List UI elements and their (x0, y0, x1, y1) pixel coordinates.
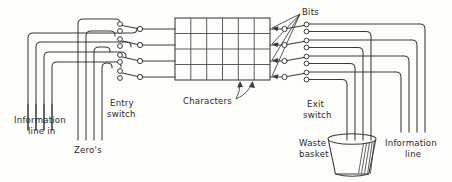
bits-label: Bits (302, 7, 319, 17)
zeros-bus (78, 19, 120, 140)
exit-contact-2b[interactable] (304, 45, 309, 50)
exit-blade-1[interactable] (287, 26, 304, 29)
exit-contact-1a[interactable] (304, 22, 309, 27)
entry-blade-1[interactable] (122, 26, 137, 29)
zeros-label: Zero's (74, 145, 102, 155)
characters-arrow-1 (237, 81, 243, 87)
schematic-canvas: Information line in Zero's Entry switch … (0, 0, 452, 182)
character-bit-matrix (175, 18, 270, 80)
entry-switch-label-line2: switch (107, 109, 136, 119)
entry-switch-pole-4[interactable] (118, 69, 175, 81)
exit-blade-2[interactable] (287, 42, 304, 45)
exit-pivot-1[interactable] (282, 26, 287, 31)
entry-pivot-2[interactable] (137, 42, 142, 47)
entry-switch[interactable] (118, 22, 175, 81)
entry-contact-3b[interactable] (118, 60, 123, 65)
exit-switch-label-line1: Exit (307, 99, 325, 109)
entry-contact-4b[interactable] (118, 76, 123, 81)
exit-pivot-2[interactable] (282, 42, 287, 47)
entry-pivot-1[interactable] (137, 26, 142, 31)
information-line-out-label-line1: Information (385, 138, 437, 148)
waste-basket-label-line2: basket (299, 149, 329, 159)
waste-basket-rim (328, 134, 376, 144)
entry-contact-2b[interactable] (118, 44, 123, 49)
exit-contact-3a[interactable] (304, 54, 309, 59)
entry-blade-3[interactable] (122, 57, 137, 61)
entry-blade-4[interactable] (122, 73, 137, 77)
exit-pivot-3[interactable] (282, 58, 287, 63)
exit-contact-1b[interactable] (304, 29, 309, 34)
exit-blade-3[interactable] (287, 58, 304, 61)
information-line-in-label-line1: Information (14, 115, 66, 125)
info-out-wire-3 (309, 56, 409, 132)
information-line-out-label-line2: line (405, 149, 421, 159)
characters-arrow-2 (249, 81, 255, 88)
waste-basket-shading (359, 141, 375, 174)
schematic-diagram: Information line in Zero's Entry switch … (0, 0, 452, 182)
information-line-in-label-line2: line in (28, 126, 55, 136)
entry-blade-2[interactable] (122, 41, 137, 45)
entry-contact-2a[interactable] (118, 37, 123, 42)
waste-basket (328, 134, 376, 176)
characters-label: Characters (183, 96, 232, 106)
exit-contact-3b[interactable] (304, 61, 309, 66)
exit-pivot-4[interactable] (282, 74, 287, 79)
entry-pivot-4[interactable] (137, 74, 142, 79)
exit-contact-4a[interactable] (304, 70, 309, 75)
waste-lines-bus (309, 32, 371, 141)
entry-switch-label-line1: Entry (110, 98, 134, 108)
exit-contact-4b[interactable] (304, 77, 309, 82)
entry-contact-1a[interactable] (118, 22, 123, 27)
entry-contact-4a[interactable] (118, 69, 123, 74)
characters-callout (236, 81, 255, 99)
exit-switch-label-line2: switch (303, 110, 332, 120)
waste-basket-label-line1: Waste (299, 138, 326, 148)
entry-pivot-3[interactable] (137, 58, 142, 63)
entry-switch-pole-1[interactable] (118, 22, 175, 34)
entry-contact-1b[interactable] (118, 29, 123, 34)
exit-contact-2a[interactable] (304, 38, 309, 43)
entry-contact-3a[interactable] (118, 53, 123, 58)
exit-blade-4[interactable] (287, 74, 304, 77)
